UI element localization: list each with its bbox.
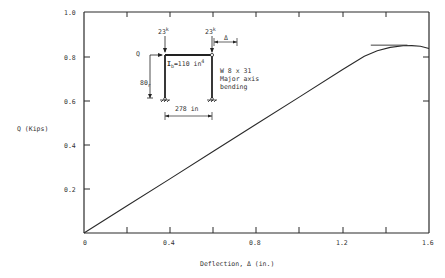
y-tick-label: 0.4	[64, 142, 76, 150]
x-ticks	[127, 12, 386, 233]
delta-label: Δ	[224, 34, 228, 42]
lateral-load-label: Q	[136, 50, 140, 58]
section-line-1: W 8 x 31	[220, 67, 259, 75]
load-left-label: 23k	[158, 26, 169, 36]
x-tick-label: 1.6	[422, 239, 434, 247]
x-tick-label: 0	[83, 239, 87, 247]
x-tick-label: 0.8	[249, 239, 261, 247]
section-line-3: bending	[220, 83, 259, 91]
span-label: 278 in	[175, 105, 198, 113]
y-tick-label: 0.2	[64, 186, 76, 194]
y-tick-label: 0.8	[64, 54, 76, 62]
beam-inertia-label: Ib=110 in4	[167, 58, 204, 69]
height-label: 80r	[140, 79, 151, 88]
chart-canvas	[0, 0, 445, 278]
x-tick-label: 1.2	[336, 239, 348, 247]
y-axis-label: Q (Kips)	[17, 125, 48, 133]
y-tick-label: 0.6	[64, 98, 76, 106]
load-right-label: 23k	[205, 26, 216, 36]
x-tick-label: 0.4	[163, 239, 175, 247]
y-tick-label: 1.0	[64, 9, 76, 17]
section-label: W 8 x 31 Major axis bending	[220, 67, 259, 91]
section-line-2: Major axis	[220, 75, 259, 83]
x-axis-label: Deflection, Δ (in.)	[200, 260, 274, 268]
